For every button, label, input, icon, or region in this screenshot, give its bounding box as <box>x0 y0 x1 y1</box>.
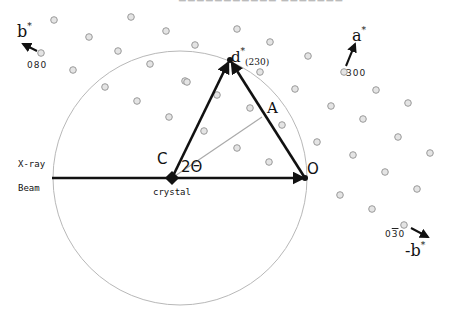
lattice-point <box>128 14 135 21</box>
lattice-point <box>147 61 154 68</box>
lattice-point <box>266 159 273 166</box>
lattice-point <box>395 134 402 141</box>
point-A-label: A <box>267 101 278 116</box>
lattice-point <box>427 150 434 157</box>
lattice-point <box>401 222 408 229</box>
clipped-title: ▬▬▬▬▬▬▬▬▬▬▬ ▬▬▬▬▬▬▬ <box>178 0 343 4</box>
lattice-point <box>382 169 389 176</box>
lattice-point <box>51 17 58 24</box>
index-080: 080 <box>27 61 47 70</box>
lattice-point <box>350 152 357 159</box>
b-star-arrow <box>23 44 37 51</box>
lattice-point <box>201 128 208 135</box>
lattice-point <box>314 139 321 146</box>
lattice-point <box>369 206 376 213</box>
lattice-point <box>305 53 312 60</box>
lattice-point <box>279 122 286 129</box>
lattice-point <box>163 28 170 35</box>
lattice-point <box>267 39 274 46</box>
lattice-point <box>414 186 421 193</box>
lattice-point <box>134 98 141 105</box>
b-star-label: b* <box>17 22 32 40</box>
lattice-point <box>184 79 191 86</box>
lattice-point <box>192 42 199 49</box>
lattice-point <box>337 192 344 199</box>
lattice-point <box>166 114 173 121</box>
d-star-label: d*(230) <box>231 47 269 67</box>
lattice-point <box>102 84 109 91</box>
neg-b-star-arrow <box>411 228 428 237</box>
lattice-point <box>257 69 264 76</box>
lattice-point <box>38 50 45 57</box>
lattice-point <box>234 145 241 152</box>
crystal-label: crystal <box>153 188 191 197</box>
lattice-point <box>292 86 299 93</box>
crystal-diamond <box>165 171 179 185</box>
point-O-label: O <box>307 162 319 177</box>
lattice-point <box>360 116 367 123</box>
lattice-point <box>373 87 380 94</box>
xray-label: X-ray <box>18 160 45 169</box>
index-300: 300 <box>346 69 366 78</box>
lattice-point <box>234 26 241 33</box>
lattice-point <box>247 105 254 112</box>
two-theta-label: 2Θ <box>181 160 202 175</box>
index-0-3bar-0: 030 <box>385 230 405 239</box>
lattice-point <box>115 48 122 55</box>
beam-label: Beam <box>18 184 40 193</box>
a-star-arrow <box>346 44 355 66</box>
point-C-label: C <box>157 152 167 167</box>
lattice-point <box>405 100 412 107</box>
a-star-label: a* <box>352 26 366 44</box>
reciprocal-lattice-points <box>38 14 434 229</box>
lattice-point <box>70 67 77 74</box>
neg-b-star-label: -b* <box>405 241 425 259</box>
ewald-sphere-diagram <box>0 0 449 321</box>
lattice-point <box>328 103 335 110</box>
lattice-point <box>86 34 93 41</box>
